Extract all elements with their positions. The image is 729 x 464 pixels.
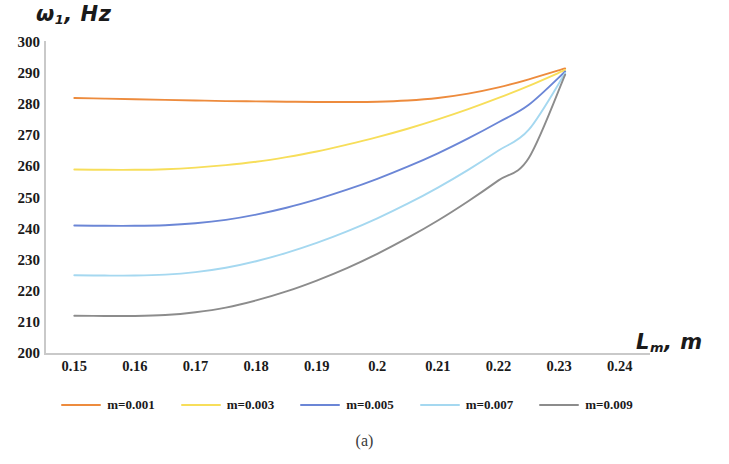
y-axis-tick-label: 240 [0, 220, 40, 237]
figure-a: ω1, Hz Lm, m 200210220230240250260270280… [0, 0, 729, 464]
x-axis-title-base: L [636, 330, 650, 354]
series-line-m-0-009 [74, 75, 565, 316]
y-axis-tick-label: 210 [0, 313, 40, 330]
chart-legend: m=0.001m=0.003m=0.005m=0.007m=0.009 [44, 392, 650, 418]
y-axis-title-tail: , Hz [64, 2, 111, 26]
legend-color-swatch [61, 404, 101, 406]
y-axis-line [44, 41, 46, 354]
legend-item[interactable]: m=0.007 [420, 397, 514, 413]
legend-item[interactable]: m=0.001 [61, 397, 155, 413]
legend-color-swatch [300, 404, 340, 406]
y-axis-tick-label: 290 [0, 65, 40, 82]
x-axis-tick-label: 0.19 [289, 358, 345, 375]
y-axis-tick-label: 270 [0, 127, 40, 144]
legend-item[interactable]: m=0.009 [539, 397, 633, 413]
legend-item[interactable]: m=0.005 [300, 397, 394, 413]
y-axis-title-subscript: 1 [55, 12, 65, 27]
x-axis-title-tail: , m [664, 330, 703, 354]
x-axis-tick-label: 0.16 [107, 358, 163, 375]
y-axis-tick-labels: 200210220230240250260270280290300 [0, 0, 40, 464]
x-axis-tick-label: 0.24 [592, 358, 648, 375]
x-axis-tick-label: 0.15 [46, 358, 102, 375]
x-axis-tick-label: 0.22 [471, 358, 527, 375]
legend-item-label: m=0.005 [346, 397, 394, 413]
x-axis-title-subscript: m [650, 340, 664, 355]
legend-item-label: m=0.003 [227, 397, 275, 413]
y-axis-tick-label: 230 [0, 251, 40, 268]
legend-item-label: m=0.007 [466, 397, 514, 413]
x-axis-tick-label: 0.23 [531, 358, 587, 375]
series-line-m-0-005 [74, 72, 565, 226]
legend-item[interactable]: m=0.003 [181, 397, 275, 413]
x-axis-line [44, 353, 650, 355]
x-axis-tick-label: 0.21 [410, 358, 466, 375]
series-line-m-0-003 [74, 70, 565, 170]
y-axis-tick-label: 260 [0, 158, 40, 175]
legend-color-swatch [539, 404, 579, 406]
x-axis-tick-label: 0.17 [168, 358, 224, 375]
x-axis-title: Lm, m [636, 330, 703, 355]
y-axis-tick-label: 280 [0, 96, 40, 113]
x-axis-tick-label: 0.2 [349, 358, 405, 375]
legend-color-swatch [181, 404, 221, 406]
y-axis-tick-label: 300 [0, 34, 40, 51]
figure-caption: (a) [0, 432, 729, 450]
y-axis-tick-label: 220 [0, 282, 40, 299]
x-axis-tick-label: 0.18 [228, 358, 284, 375]
legend-color-swatch [420, 404, 460, 406]
legend-item-label: m=0.001 [107, 397, 155, 413]
y-axis-tick-label: 200 [0, 345, 40, 362]
y-axis-tick-label: 250 [0, 189, 40, 206]
legend-item-label: m=0.009 [585, 397, 633, 413]
series-line-m-0-001 [74, 68, 565, 102]
series-line-m-0-007 [74, 73, 565, 276]
y-axis-title: ω1, Hz [36, 2, 111, 27]
